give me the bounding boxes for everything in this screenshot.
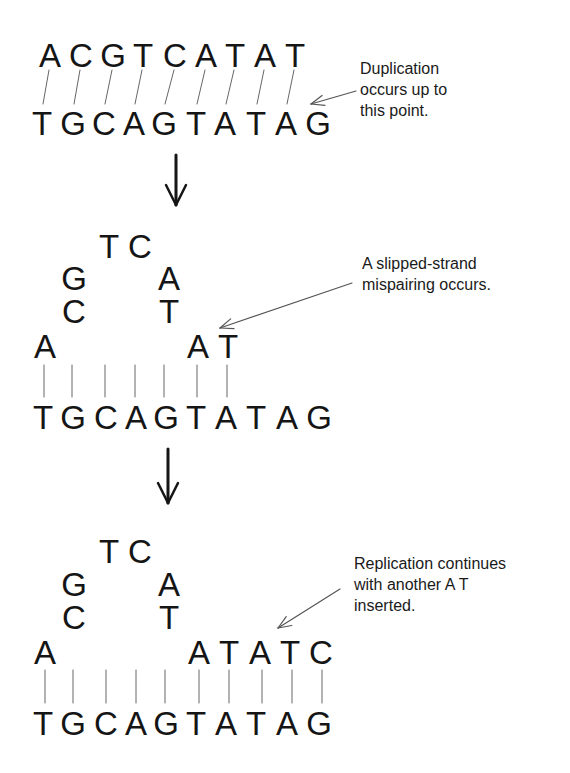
annotation-line: mispairing occurs. xyxy=(362,274,491,295)
base: T xyxy=(30,401,56,434)
base-pair-bond xyxy=(165,70,174,104)
base: T xyxy=(243,401,269,434)
base: G xyxy=(151,107,177,140)
loop-base: C xyxy=(127,535,153,568)
base: A xyxy=(212,107,238,140)
base-pair-bond xyxy=(105,70,112,104)
base: T xyxy=(183,107,209,140)
base: G xyxy=(100,39,126,72)
base: C xyxy=(93,707,119,740)
base-pair-bond xyxy=(197,70,205,104)
loop-base: C xyxy=(61,601,87,634)
base: G xyxy=(306,707,332,740)
annotation-line: inserted. xyxy=(354,595,506,616)
loop-base: T xyxy=(96,535,122,568)
base: C xyxy=(162,39,188,72)
base: G xyxy=(306,401,332,434)
loop-base: T xyxy=(96,230,122,263)
base: A xyxy=(274,401,300,434)
base: G xyxy=(60,707,86,740)
base: A xyxy=(193,39,219,72)
base-pair-bond xyxy=(74,70,80,104)
annotation-line: Duplication xyxy=(360,58,447,79)
base: T xyxy=(215,330,241,363)
annotation-line: A slipped-strand xyxy=(362,253,491,274)
base: C xyxy=(68,39,94,72)
base: A xyxy=(185,330,211,363)
annotation-duplication: Duplication occurs up to this point. xyxy=(360,58,447,121)
base-pair-bond xyxy=(135,70,142,104)
base: A xyxy=(213,707,239,740)
base: A xyxy=(32,330,58,363)
base: G xyxy=(153,401,179,434)
loop-base: T xyxy=(156,601,182,634)
base-pair-bond xyxy=(43,70,49,104)
base: A xyxy=(121,107,147,140)
loop-base: T xyxy=(156,295,182,328)
annotation-line: this point. xyxy=(360,100,447,121)
base: T xyxy=(29,107,55,140)
base: C xyxy=(91,107,117,140)
base-pair-bond xyxy=(257,70,264,104)
pointer-arrow-icon xyxy=(311,91,356,104)
base: T xyxy=(183,401,209,434)
loop-base: C xyxy=(61,295,87,328)
annotation-replication-continues: Replication continues with another A T i… xyxy=(354,553,506,616)
base-pair-bond xyxy=(287,70,294,104)
base: A xyxy=(213,401,239,434)
base: A xyxy=(247,636,273,669)
base: T xyxy=(216,636,242,669)
pointer-arrow-icon xyxy=(278,589,340,628)
loop-base: C xyxy=(127,230,153,263)
base: A xyxy=(123,707,149,740)
annotation-line: occurs up to xyxy=(360,79,447,100)
loop-base: A xyxy=(156,262,182,295)
base: A xyxy=(274,707,300,740)
base: T xyxy=(222,39,248,72)
base: A xyxy=(32,636,58,669)
base: G xyxy=(153,707,179,740)
base: T xyxy=(243,707,269,740)
annotation-line: with another A T xyxy=(354,574,506,595)
base: G xyxy=(60,107,86,140)
base: A xyxy=(123,401,149,434)
base: T xyxy=(183,707,209,740)
base: A xyxy=(37,39,63,72)
loop-base: G xyxy=(61,568,87,601)
base: T xyxy=(130,39,156,72)
loop-base: A xyxy=(156,568,182,601)
base: C xyxy=(308,636,334,669)
annotation-line: Replication continues xyxy=(354,553,506,574)
base: T xyxy=(243,107,269,140)
base: T xyxy=(277,636,303,669)
base: T xyxy=(30,707,56,740)
pointer-arrow-icon xyxy=(220,283,352,328)
base: A xyxy=(186,636,212,669)
base: G xyxy=(305,107,331,140)
base: A xyxy=(273,107,299,140)
base: A xyxy=(252,39,278,72)
base: T xyxy=(282,39,308,72)
base: C xyxy=(93,401,119,434)
base: G xyxy=(60,401,86,434)
loop-base: G xyxy=(61,262,87,295)
annotation-slipped-strand: A slipped-strand mispairing occurs. xyxy=(362,253,491,295)
base-pair-bond xyxy=(226,70,234,104)
